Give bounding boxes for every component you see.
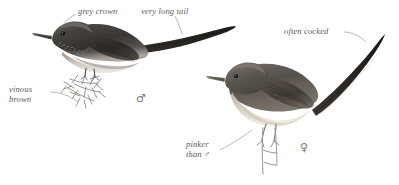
annotation-vinous-line2: brown	[9, 94, 32, 104]
left-bird-eye	[61, 31, 66, 35]
annotation-very-long-tail: very long tail	[141, 6, 188, 16]
left-bird-legs	[85, 68, 95, 77]
right-bird-body	[229, 64, 318, 112]
leader-very-long-tail	[175, 16, 182, 34]
annotation-pinker-line2: than ♂	[186, 149, 211, 159]
annotation-often-cocked: often cocked	[284, 26, 329, 36]
right-bird-legs	[262, 124, 276, 141]
leader-pinker-than-male	[220, 130, 252, 150]
left-bird-head	[52, 22, 95, 51]
leader-vinous-brown	[50, 92, 78, 102]
left-bird-tail	[140, 26, 236, 53]
right-bird-crown	[231, 64, 265, 74]
right-bird-wing	[255, 78, 314, 109]
annotation-vinous-line1: vinous	[9, 84, 32, 94]
annotation-vinous-brown: vinous brown	[9, 84, 32, 105]
right-bird-head	[225, 63, 268, 94]
left-bird-body	[56, 24, 148, 61]
leader-grey-crown	[62, 14, 76, 26]
stem-perch	[262, 128, 277, 174]
male-symbol: ♂	[136, 92, 146, 105]
left-bird-throat-speckles	[58, 42, 84, 53]
left-bird-crown	[58, 23, 92, 33]
annotation-pinker-than-male: pinker than ♂	[186, 139, 211, 160]
left-bird-belly	[62, 52, 139, 73]
annotation-often-cocked-text: often cocked	[284, 26, 329, 36]
leader-often-cocked	[344, 32, 366, 42]
right-bird-bill	[206, 76, 225, 81]
female-symbol: ♀	[300, 141, 308, 154]
right-bird-female	[206, 34, 385, 174]
annotation-very-long-tail-text: very long tail	[141, 6, 188, 16]
annotation-grey-crown-text: grey crown	[78, 6, 117, 16]
left-bird-bill	[32, 33, 52, 39]
right-bird-tail	[312, 34, 385, 116]
annotation-grey-crown: grey crown	[78, 6, 117, 16]
left-bird-wing	[82, 36, 139, 60]
right-bird-belly	[231, 92, 310, 127]
thorny-twig-perch	[61, 73, 105, 108]
annotation-pinker-line1: pinker	[186, 139, 211, 149]
illustration-plate: grey crown very long tail vinous brown o…	[0, 0, 399, 185]
right-bird-eye	[234, 74, 239, 78]
left-bird-male	[32, 22, 236, 108]
